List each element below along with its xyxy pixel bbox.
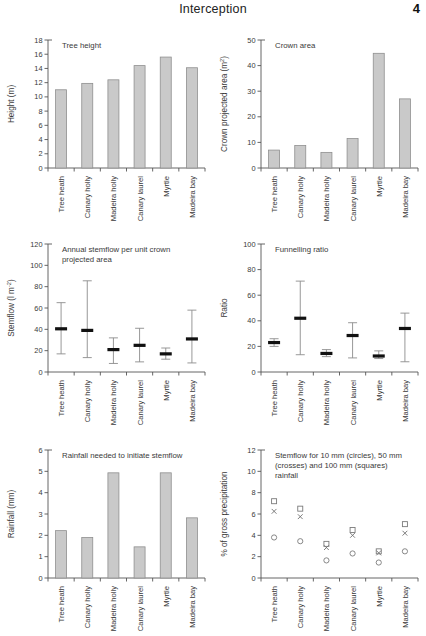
x-category-label: Madeira bay [401,176,410,218]
svg-text:Myrtle: Myrtle [162,380,171,401]
y-axis-title: Crown projected area (m2) [219,56,229,152]
y-axis-title: % of gross precipitation [220,471,229,557]
svg-text:Canary holly: Canary holly [83,176,92,218]
x-category-label: Tree heath [270,176,279,212]
svg-text:Stemflow (l m-2): Stemflow (l m-2) [6,279,16,337]
y-axis-title: Ratio [220,298,229,318]
svg-text:Tree heath: Tree heath [57,176,66,212]
panel-caption: rainfall [275,471,298,480]
mean-marker [81,329,93,332]
y-tick-label: 12 [34,78,42,87]
mean-marker [55,327,67,330]
mean-marker [134,344,146,347]
svg-text:Canary laurel: Canary laurel [349,380,358,425]
y-tick-label: 60 [247,291,255,300]
y-tick-label: 80 [247,265,255,274]
page-number: 4 [413,1,420,16]
bar [160,57,171,168]
y-tick-label: 40 [247,316,255,325]
y-tick-label: 20 [247,112,255,121]
x-category-label: Myrtle [162,176,171,197]
y-tick-label: 8 [251,488,255,497]
bar [56,90,67,168]
svg-text:Madeira bay: Madeira bay [401,380,410,422]
svg-text:Tree heath: Tree heath [270,586,279,622]
svg-text:Myrtle: Myrtle [375,586,384,607]
svg-text:Ratio: Ratio [220,298,229,318]
x-category-label: Tree heath [270,380,279,416]
chart-annual-stemflow: 020406080100120Stemflow (l m-2)Annual st… [0,230,213,436]
panel-annual-stemflow: 020406080100120Stemflow (l m-2)Annual st… [0,230,213,436]
svg-text:Canary laurel: Canary laurel [349,176,358,221]
svg-text:Madeira bay: Madeira bay [401,176,410,218]
panel-tree-height: 024681012141618Height (m)Tree heightTree… [0,26,213,230]
svg-text:Canary laurel: Canary laurel [136,380,145,425]
svg-text:Tree heath: Tree heath [270,176,279,212]
bar [347,139,358,168]
x-category-label: Canary holly [83,586,92,628]
bar [399,99,410,168]
x-category-label: Tree heath [57,176,66,212]
mean-marker [160,352,172,355]
y-tick-label: 14 [34,64,42,73]
panel-caption: Tree height [62,41,102,50]
y-tick-label: 4 [38,135,42,144]
x-category-label: Madeira bay [188,586,197,628]
svg-text:Myrtle: Myrtle [162,586,171,607]
x-category-label: Canary holly [296,380,305,422]
marker-circle [350,551,355,556]
svg-text:Tree heath: Tree heath [57,586,66,622]
y-tick-label: 4 [38,488,42,497]
x-category-label: Tree heath [57,380,66,416]
marker-circle [376,560,381,565]
y-tick-label: 20 [34,346,42,355]
marker-square [272,499,277,504]
y-tick-label: 1 [38,552,42,561]
y-axis-title: Rainfall (mm) [7,489,16,538]
y-tick-label: 0 [38,368,42,377]
panel-caption: Annual stemflow per unit crown [62,245,170,254]
svg-text:% of gross precipitation: % of gross precipitation [220,471,229,557]
chart-rainfall-initiate-stemflow: 0123456Rainfall (mm)Rainfall needed to i… [0,436,213,636]
x-category-label: Madeira holly [109,380,118,425]
y-tick-label: 100 [243,240,255,249]
svg-text:Canary holly: Canary holly [296,176,305,218]
y-tick-label: 8 [38,107,42,116]
marker-circle [324,558,329,563]
bar [134,547,145,578]
bar [321,152,332,168]
y-tick-label: 10 [34,92,42,101]
panel-funnelling-ratio: 020406080100RatioFunnelling ratioTree he… [213,230,426,436]
page-header: Interception 4 [0,0,426,26]
y-tick-label: 2 [251,552,255,561]
marker-circle [298,539,303,544]
mean-marker [347,334,359,337]
svg-text:Madeira bay: Madeira bay [188,176,197,218]
x-category-label: Madeira bay [188,176,197,218]
panel-caption: Funnelling ratio [275,245,329,254]
x-category-label: Canary holly [296,176,305,218]
x-category-label: Canary holly [83,380,92,422]
y-tick-label: 120 [30,240,42,249]
x-category-label: Canary holly [83,176,92,218]
y-tick-label: 16 [34,50,42,59]
x-category-label: Myrtle [375,176,384,197]
y-tick-label: 10 [247,138,255,147]
svg-text:Canary holly: Canary holly [296,586,305,628]
bar [160,473,171,578]
x-category-label: Madeira holly [322,176,331,221]
y-tick-label: 40 [247,61,255,70]
svg-text:Tree heath: Tree heath [57,380,66,416]
y-tick-label: 2 [38,149,42,158]
panel-crown-area: 01020304050Crown projected area (m2)Crow… [213,26,426,230]
svg-text:Madeira bay: Madeira bay [401,586,410,628]
svg-text:Madeira holly: Madeira holly [322,586,331,631]
x-category-label: Madeira holly [322,380,331,425]
svg-text:Madeira holly: Madeira holly [109,380,118,425]
y-tick-label: 18 [34,36,42,45]
chart-crown-area: 01020304050Crown projected area (m2)Crow… [213,26,426,230]
mean-marker [107,348,119,351]
y-tick-label: 40 [34,325,42,334]
x-category-label: Canary laurel [349,586,358,631]
y-tick-label: 5 [38,467,42,476]
